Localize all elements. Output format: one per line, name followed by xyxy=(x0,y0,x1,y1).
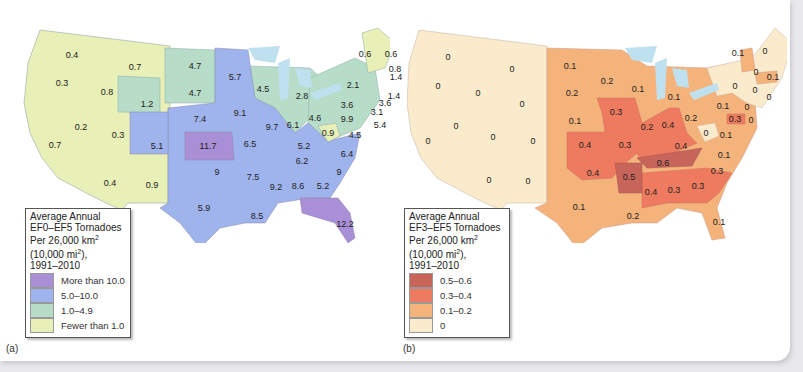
state-value-label: 0 xyxy=(490,132,495,142)
legend-item: 1.0–4.9 xyxy=(30,303,126,318)
map-panel-a: 0.40.70.30.81.24.74.75.74.52.82.10.60.60… xyxy=(0,0,395,361)
state-value-label: 0.2 xyxy=(566,88,579,98)
state-value-label: 0 xyxy=(530,136,535,146)
state-value-label: 5.2 xyxy=(317,181,330,191)
state-value-label: 0.3 xyxy=(56,78,69,88)
legend-swatch xyxy=(30,273,54,288)
legend-title-b: Average Annual EF3–EF5 Tornadoes Per 26,… xyxy=(409,212,505,271)
state-value-label: 0.4 xyxy=(675,141,688,151)
state-value-label: 0 xyxy=(453,121,458,131)
state-value-label: 0 xyxy=(748,115,753,125)
state-value-label: 0.3 xyxy=(112,130,125,140)
state-value-label: 4.5 xyxy=(257,84,270,94)
state-value-label: 9.7 xyxy=(266,122,279,132)
legend-swatch xyxy=(409,273,433,288)
state-value-label: 9.1 xyxy=(234,108,247,118)
state-value-label: 9 xyxy=(336,167,341,177)
state-value-label: 0 xyxy=(525,176,530,186)
panel-caption-b: (b) xyxy=(403,343,415,354)
state-value-label: 2.8 xyxy=(296,91,309,101)
state-value-label: 0 xyxy=(519,99,524,109)
state-value-label: 0 xyxy=(752,85,757,95)
state-value-label: 5.1 xyxy=(151,141,164,151)
state-value-label: 4.7 xyxy=(189,88,202,98)
state-value-label: 0.1 xyxy=(720,130,733,140)
state-value-label: 0 xyxy=(486,175,491,185)
state-value-label: 3.6 xyxy=(341,100,354,110)
state-value-label: 0.3 xyxy=(692,181,705,191)
legend-item: 5.0–10.0 xyxy=(30,288,126,303)
legend-item: More than 10.0 xyxy=(30,273,126,288)
state-value-label: 0 xyxy=(762,46,767,56)
panel-caption-a: (a) xyxy=(6,343,18,354)
state-value-label: 6.1 xyxy=(287,120,300,130)
state-value-label: 0 xyxy=(425,136,430,146)
state-value-label: 9.9 xyxy=(341,114,354,124)
state-value-label: 0 xyxy=(435,81,440,91)
state-value-label: 0.4 xyxy=(662,120,675,130)
legend-item: 0.1–0.2 xyxy=(409,303,505,318)
state-value-label: 9.2 xyxy=(270,182,283,192)
figure-frame: 0.40.70.30.81.24.74.75.74.52.82.10.60.60… xyxy=(0,0,790,361)
state-value-label: 4.7 xyxy=(189,61,202,71)
state-value-label: 1.2 xyxy=(141,99,154,109)
state-value-label: 12.2 xyxy=(336,219,354,229)
state-value-label: 0.1 xyxy=(718,150,731,160)
state-value-label: 0 xyxy=(753,67,758,77)
state-value-label: 0.3 xyxy=(610,107,623,117)
state-value-label: 11.7 xyxy=(200,141,217,151)
state-value-label: 0 xyxy=(445,52,450,62)
state-value-label: 0.2 xyxy=(601,76,614,86)
state-value-label: 0.1 xyxy=(767,72,780,82)
state-value-label: 0.1 xyxy=(668,92,681,102)
state-value-label: 0.4 xyxy=(579,140,592,150)
state-value-label: 0.1 xyxy=(564,61,577,71)
state-value-label: 0.2 xyxy=(685,113,698,123)
state-value-label: 0.8 xyxy=(101,87,114,97)
state-value-label: 0.2 xyxy=(627,211,640,221)
legend-a: Average Annual EF0–EF5 Tornadoes Per 26,… xyxy=(25,208,131,338)
state-value-label: 5.4 xyxy=(374,120,387,130)
state-value-label: 9 xyxy=(214,167,219,177)
state-value-label: 0.6 xyxy=(385,49,398,59)
legend-b: Average Annual EF3–EF5 Tornadoes Per 26,… xyxy=(404,208,510,338)
state-value-label: 0.2 xyxy=(75,122,88,132)
legend-swatch xyxy=(409,288,433,303)
state-value-label: 0.3 xyxy=(668,185,681,195)
state-value-label: 7.5 xyxy=(247,172,260,182)
state-value-label: 0.3 xyxy=(729,114,742,124)
state-value-label: 0.4 xyxy=(66,50,79,60)
state-value-label: 0.7 xyxy=(129,62,142,72)
state-value-label: 2.1 xyxy=(347,80,360,90)
state-value-label: 5.2 xyxy=(298,141,311,151)
state-value-label: 0.9 xyxy=(322,128,335,138)
state-value-label: 0.3 xyxy=(619,140,632,150)
state-value-label: 6.2 xyxy=(296,156,309,166)
state-value-label: 0.1 xyxy=(713,217,726,227)
legend-swatch xyxy=(409,318,433,333)
state-value-label: 5.7 xyxy=(229,72,242,82)
state-value-label: 5.9 xyxy=(198,203,211,213)
state-value-label: 0 xyxy=(766,92,771,102)
state-value-label: 0 xyxy=(744,102,749,112)
state-value-label: 8.6 xyxy=(292,181,305,191)
state-value-label: 0.6 xyxy=(359,49,372,59)
state-value-label: 3.1 xyxy=(371,107,384,117)
legend-swatch xyxy=(30,303,54,318)
state-value-label: 4.5 xyxy=(349,130,362,140)
state-value-label: 0.5 xyxy=(623,172,636,182)
state-value-label: 0 xyxy=(732,81,737,91)
legend-swatch xyxy=(30,318,54,333)
state-value-label: 0.4 xyxy=(587,168,600,178)
legend-item: Fewer than 1.0 xyxy=(30,318,126,333)
legend-title-a: Average Annual EF0–EF5 Tornadoes Per 26,… xyxy=(30,212,126,271)
state-value-label: 0 xyxy=(703,128,708,138)
state-value-label: 0.2 xyxy=(641,122,654,132)
legend-item: 0 xyxy=(409,318,505,333)
legend-item: 0.5–0.6 xyxy=(409,273,505,288)
state-value-label: 0.1 xyxy=(569,116,582,126)
legend-swatch xyxy=(409,303,433,318)
legend-swatch xyxy=(30,288,54,303)
state-value-label: 0 xyxy=(509,64,514,74)
state-value-label: 6.5 xyxy=(244,139,257,149)
